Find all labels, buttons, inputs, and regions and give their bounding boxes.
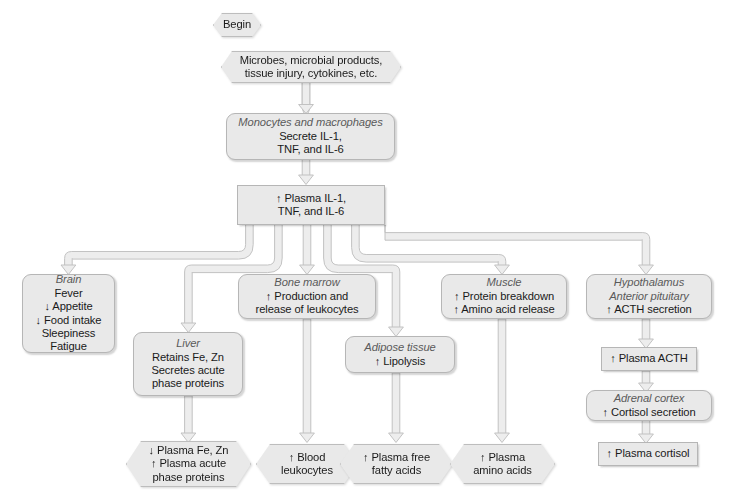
node-line-italic: Hypothalamus xyxy=(614,276,684,289)
node-plasma-amino-acids[interactable]: ↑ Plasma amino acids xyxy=(450,444,555,484)
node-plasma-fe-zn-text: ↓ Plasma Fe, Zn ↑ Plasma acute phase pro… xyxy=(149,444,229,484)
node-line-italic: Brain xyxy=(56,273,82,286)
node-line: ↓ Appetite xyxy=(44,300,92,313)
node-line-italic: Monocytes and macrophages xyxy=(238,116,382,129)
node-line: ↑ Cortisol secretion xyxy=(602,406,695,419)
node-muscle[interactable]: Muscle ↑ Protein breakdown ↑ Amino acid … xyxy=(441,274,567,319)
node-line: TNF, and IL-6 xyxy=(277,143,343,156)
node-line: amino acids xyxy=(473,464,532,477)
node-line: ↑ Plasma ACTH xyxy=(610,352,688,365)
node-line: ↑ Protein breakdown xyxy=(454,290,554,303)
node-line: ↑ Plasma free xyxy=(363,451,430,464)
node-monocytes[interactable]: Monocytes and macrophages Secrete IL-1, … xyxy=(226,113,395,160)
node-blood-leukocytes-text: ↑ Blood leukocytes xyxy=(281,451,333,478)
node-line: ↓ Food intake xyxy=(36,314,102,327)
node-line: tissue injury, cytokines, etc. xyxy=(240,67,383,80)
node-line: ↑ Production and xyxy=(266,290,348,303)
node-plasma-ffa[interactable]: ↑ Plasma free fatty acids xyxy=(340,444,453,484)
node-hypothalamus[interactable]: Hypothalamus Anterior pituitary ↑ ACTH s… xyxy=(586,274,712,319)
node-line: fatty acids xyxy=(363,464,430,477)
node-bone-marrow[interactable]: Bone marrow ↑ Production and release of … xyxy=(238,274,376,319)
node-line-italic: Muscle xyxy=(487,276,522,289)
node-line: ↑ ACTH secretion xyxy=(606,303,691,316)
node-liver[interactable]: Liver Retains Fe, Zn Secretes acute phas… xyxy=(133,332,243,396)
node-line: ↑ Blood xyxy=(281,451,333,464)
node-plasma-cytokines[interactable]: ↑ Plasma IL-1, TNF, and IL-6 xyxy=(237,185,385,225)
node-plasma-ffa-text: ↑ Plasma free fatty acids xyxy=(363,451,430,478)
node-line-italic: Bone marrow xyxy=(274,276,339,289)
node-line-italic: Adrenal cortex xyxy=(614,392,685,405)
node-line: Fever xyxy=(54,287,82,300)
node-begin[interactable]: Begin xyxy=(213,13,261,37)
node-line-italic: Adipose tissue xyxy=(364,341,435,354)
node-line: phase proteins xyxy=(152,377,224,390)
node-line: leukocytes xyxy=(281,464,333,477)
node-line: ↑ Plasma IL-1, xyxy=(276,192,346,205)
node-line: phase proteins xyxy=(149,471,229,484)
node-line: Retains Fe, Zn xyxy=(152,351,224,364)
node-plasma-fe-zn[interactable]: ↓ Plasma Fe, Zn ↑ Plasma acute phase pro… xyxy=(126,441,251,487)
node-adipose[interactable]: Adipose tissue ↑ Lipolysis xyxy=(345,336,455,373)
node-stimuli-text: Microbes, microbial products, tissue inj… xyxy=(240,54,383,81)
node-begin-text: Begin xyxy=(223,18,251,31)
flowchart-canvas: Begin Microbes, microbial products, tiss… xyxy=(0,0,740,498)
node-line: ↑ Plasma acute xyxy=(149,457,229,470)
node-brain[interactable]: Brain Fever ↓ Appetite ↓ Food intake Sle… xyxy=(22,274,115,353)
node-line: ↑ Plasma xyxy=(473,451,532,464)
node-plasma-cortisol[interactable]: ↑ Plasma cortisol xyxy=(598,442,698,466)
node-stimuli[interactable]: Microbes, microbial products, tissue inj… xyxy=(221,51,401,83)
node-line: Secrete IL-1, xyxy=(279,130,342,143)
node-line: Begin xyxy=(223,18,251,31)
node-line: Secretes acute xyxy=(151,364,224,377)
node-line: Sleepiness xyxy=(42,327,96,340)
node-line-italic: Liver xyxy=(176,337,200,350)
node-line: ↑ Lipolysis xyxy=(375,355,426,368)
node-line-italic: Anterior pituitary xyxy=(609,290,689,303)
node-line: ↑ Plasma cortisol xyxy=(607,447,690,460)
node-line: Fatigue xyxy=(50,340,87,353)
node-plasma-acth[interactable]: ↑ Plasma ACTH xyxy=(601,347,697,371)
node-plasma-amino-acids-text: ↑ Plasma amino acids xyxy=(473,451,532,478)
node-line: Microbes, microbial products, xyxy=(240,54,383,67)
node-line: release of leukocytes xyxy=(256,303,359,316)
node-line: ↓ Plasma Fe, Zn xyxy=(149,444,229,457)
node-adrenal-cortex[interactable]: Adrenal cortex ↑ Cortisol secretion xyxy=(586,390,712,421)
node-line: TNF, and IL-6 xyxy=(278,205,344,218)
node-line: ↑ Amino acid release xyxy=(453,303,554,316)
